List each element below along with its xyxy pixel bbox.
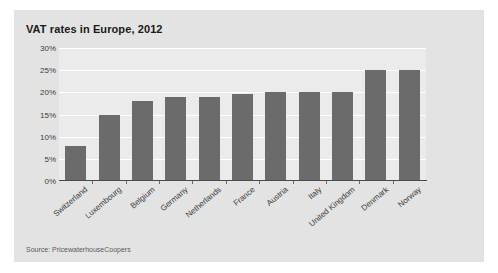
bar xyxy=(232,94,253,181)
y-axis-tick-label: 0% xyxy=(44,177,56,186)
x-axis-tick xyxy=(293,181,294,184)
gridline xyxy=(59,48,426,49)
x-axis-tick-label: Luxembourg xyxy=(118,185,119,186)
y-axis-tick-label: 30% xyxy=(40,44,56,53)
bar xyxy=(165,97,186,181)
bar xyxy=(132,101,153,181)
x-axis-tick-label: Belgium xyxy=(151,185,152,186)
x-axis-tick-label: Netherlands xyxy=(218,185,219,186)
source-note: Source: PricewaterhouseCoopers xyxy=(26,246,131,253)
x-axis-tick xyxy=(92,181,93,184)
bar xyxy=(99,115,120,182)
x-axis-tick-label: Norway xyxy=(418,185,419,186)
chart-figure: VAT rates in Europe, 2012 30%25%20%15%10… xyxy=(14,10,484,262)
chart-title: VAT rates in Europe, 2012 xyxy=(26,23,163,35)
bar xyxy=(365,70,386,181)
y-axis-tick-label: 5% xyxy=(44,154,56,163)
x-axis-tick xyxy=(359,181,360,184)
y-axis-tick-label: 15% xyxy=(40,110,56,119)
x-axis-tick-label: Italy xyxy=(318,185,319,186)
x-axis-labels: SwitzerlandLuxembourgBelgiumGermanyNethe… xyxy=(59,182,426,244)
x-axis-tick xyxy=(126,181,127,184)
y-axis-tick-label: 25% xyxy=(40,66,56,75)
x-axis-tick-label: United Kingdom xyxy=(352,185,353,186)
x-axis-tick xyxy=(159,181,160,184)
bar xyxy=(299,92,320,181)
x-axis-tick-label: France xyxy=(252,185,253,186)
bar xyxy=(199,97,220,181)
x-axis-tick xyxy=(393,181,394,184)
x-axis-tick-label: Switzerland xyxy=(85,185,86,186)
bar xyxy=(399,70,420,181)
bar xyxy=(265,92,286,181)
x-axis-tick xyxy=(192,181,193,184)
x-axis-tick xyxy=(259,181,260,184)
y-axis-tick-label: 20% xyxy=(40,88,56,97)
x-axis-line xyxy=(59,180,427,181)
x-axis-tick xyxy=(226,181,227,184)
plot-area xyxy=(59,48,426,181)
bar xyxy=(332,92,353,181)
x-axis-tick-label: Austria xyxy=(285,185,286,186)
bar xyxy=(65,146,86,181)
y-axis: 30%25%20%15%10%5%0% xyxy=(28,48,56,181)
x-axis-tick-label: Denmark xyxy=(385,185,386,186)
y-axis-tick-label: 10% xyxy=(40,132,56,141)
x-axis-tick-label: Germany xyxy=(185,185,186,186)
x-axis-tick xyxy=(326,181,327,184)
